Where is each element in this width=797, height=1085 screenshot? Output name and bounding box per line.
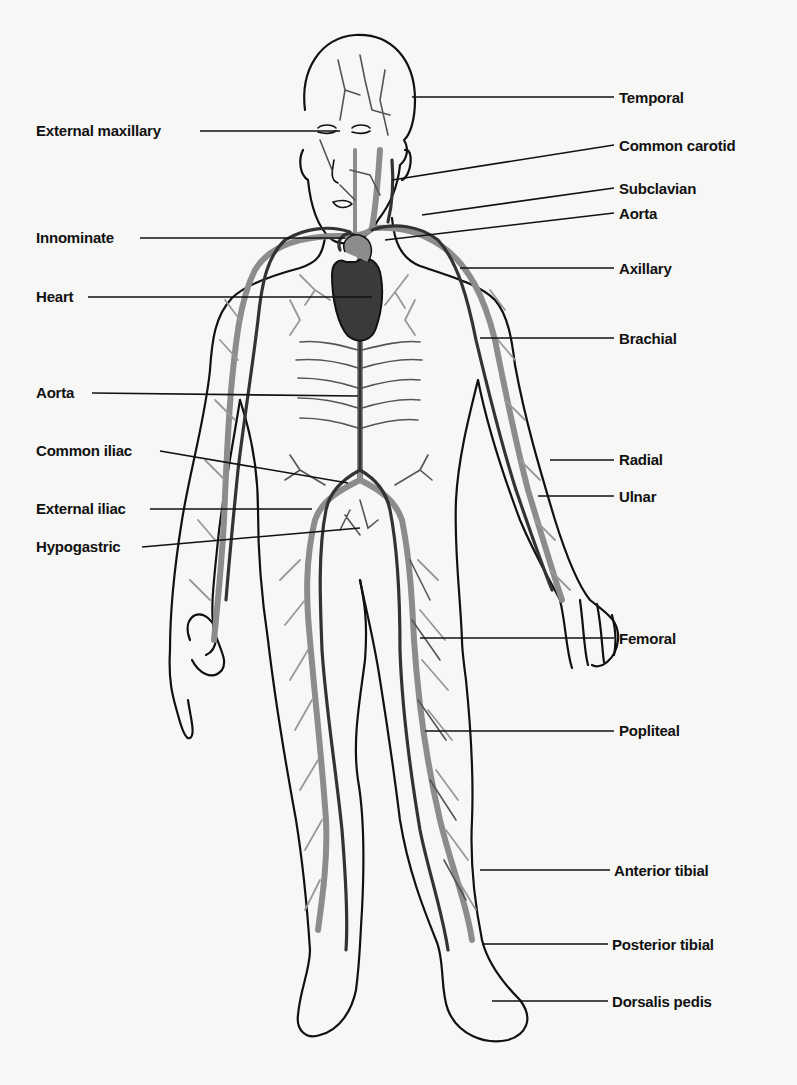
- label-common-iliac: Common iliac: [36, 442, 132, 460]
- heart-shape: [332, 258, 382, 340]
- label-axillary: Axillary: [619, 260, 672, 278]
- label-posterior-tibial: Posterior tibial: [612, 936, 714, 954]
- label-dorsalis-pedis: Dorsalis pedis: [612, 993, 712, 1011]
- label-femoral: Femoral: [619, 630, 676, 648]
- label-anterior-tibial: Anterior tibial: [614, 862, 709, 880]
- label-innominate: Innominate: [36, 229, 114, 247]
- arteries: [226, 160, 552, 950]
- label-common-carotid: Common carotid: [619, 137, 735, 155]
- label-heart: Heart: [36, 288, 73, 306]
- label-popliteal: Popliteal: [619, 722, 680, 740]
- label-external-maxillary: External maxillary: [36, 122, 161, 140]
- label-aorta-arch: Aorta: [619, 205, 657, 223]
- label-hypogastric: Hypogastric: [36, 538, 121, 556]
- label-radial: Radial: [619, 451, 663, 469]
- label-temporal: Temporal: [619, 89, 684, 107]
- label-external-iliac: External iliac: [36, 500, 126, 518]
- label-subclavian: Subclavian: [619, 180, 696, 198]
- label-aorta-abdominal: Aorta: [36, 384, 74, 402]
- label-brachial: Brachial: [619, 330, 677, 348]
- label-ulnar: Ulnar: [619, 488, 656, 506]
